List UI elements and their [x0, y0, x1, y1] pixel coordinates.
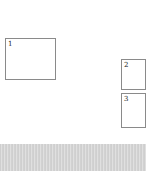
region-box-2[interactable]: 2: [121, 59, 146, 90]
region-label-1: 1: [8, 40, 12, 48]
region-box-1[interactable]: 1: [5, 38, 56, 80]
region-label-2: 2: [124, 61, 128, 69]
gray-striped-bar: [0, 144, 146, 171]
region-label-3: 3: [124, 95, 128, 103]
region-box-3[interactable]: 3: [121, 93, 146, 128]
